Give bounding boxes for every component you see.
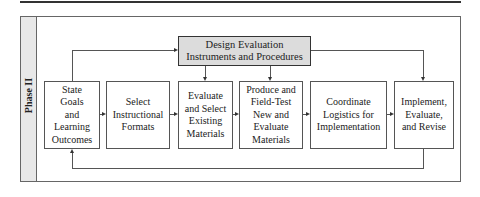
- arrow-right-icon: [235, 112, 239, 116]
- step-label: Produce and Field-Test New and Evaluate …: [246, 84, 296, 147]
- connector-design-to-step3: [205, 66, 206, 77]
- step-state-goals: State Goals and Learning Outcomes: [44, 81, 100, 149]
- connector-design-to-step6: [311, 50, 424, 51]
- design-evaluation-label: Design Evaluation Instruments and Proced…: [186, 39, 303, 64]
- phase-label-text: Phase II: [24, 77, 35, 112]
- arrow-right-icon: [390, 112, 394, 116]
- arrow-right-icon: [102, 112, 106, 116]
- step-implement-revise: Implement, Evaluate, and Revise: [394, 81, 454, 149]
- connector-design-to-step4: [270, 66, 271, 77]
- feedback-horizontal: [72, 168, 424, 169]
- step-label: Implement, Evaluate, and Revise: [401, 96, 447, 134]
- top-rule: [20, 1, 461, 3]
- step-produce-field-test: Produce and Field-Test New and Evaluate …: [239, 81, 303, 149]
- arrow-up-icon: [70, 149, 74, 153]
- step-label: Evaluate and Select Existing Materials: [185, 90, 226, 140]
- step-evaluate-existing: Evaluate and Select Existing Materials: [178, 81, 233, 149]
- arrow-down-icon: [203, 77, 207, 81]
- arrow-down-icon: [421, 77, 425, 81]
- feedback-down: [423, 149, 424, 168]
- step-label: State Goals and Learning Outcomes: [52, 84, 93, 147]
- arrow-down-icon: [268, 77, 272, 81]
- connector-design-to-step6-down: [423, 50, 424, 77]
- connector-goals-up: [72, 50, 73, 81]
- arrow-right-icon: [174, 48, 178, 52]
- step-label: Select Instructional Formats: [113, 96, 164, 134]
- feedback-up: [72, 153, 73, 168]
- arrow-right-icon: [174, 112, 178, 116]
- step-select-formats: Select Instructional Formats: [106, 81, 170, 149]
- arrow-right-icon: [306, 112, 310, 116]
- phase-label: Phase II: [21, 65, 37, 125]
- connector-goals-to-design: [72, 50, 174, 51]
- step-label: Coordinate Logistics for Implementation: [317, 96, 380, 134]
- design-evaluation-box: Design Evaluation Instruments and Proced…: [178, 36, 311, 66]
- step-coordinate-logistics: Coordinate Logistics for Implementation: [310, 81, 387, 149]
